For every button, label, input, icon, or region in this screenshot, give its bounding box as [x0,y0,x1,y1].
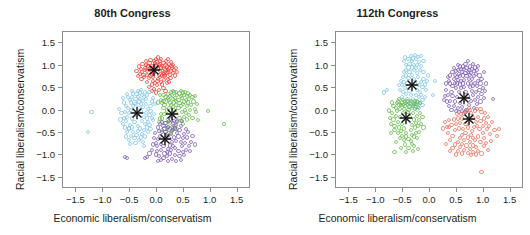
data-point [399,146,403,150]
data-point [401,98,405,102]
data-point [450,94,454,98]
x-axis-label: Economic liberalism/conservatism [265,212,530,224]
data-point [448,149,452,153]
x-tick-mark [129,188,130,192]
cluster-centroid-marker [158,132,173,151]
data-point [482,144,486,148]
data-point [119,111,123,115]
data-point [445,125,449,129]
x-tick-mark [402,188,403,192]
x-tick-mark [348,188,349,192]
y-tick-mark [58,154,62,155]
data-point [179,89,183,93]
data-point [186,130,190,134]
data-point [492,128,496,132]
y-tick-label: −1.5 [298,171,328,182]
data-point [454,152,458,156]
data-point [419,54,423,58]
data-point [423,82,427,86]
y-tick-mark [331,110,335,111]
x-tick-mark [429,188,430,192]
x-tick-label: 0.5 [441,194,471,205]
data-point [431,93,435,97]
data-point [387,108,391,112]
data-point [497,127,501,131]
data-point [176,149,180,153]
data-point [466,59,470,63]
y-tick-mark [58,177,62,178]
x-tick-label: 1.5 [495,194,525,205]
data-point [392,128,396,132]
y-tick-label: 0.5 [298,82,328,93]
plot-area [335,31,523,188]
data-point [156,159,160,163]
data-point [190,134,194,138]
y-tick-label: 1.0 [298,59,328,70]
data-point [129,134,133,138]
data-point [187,144,191,148]
data-point [419,64,423,68]
y-tick-label: 1.5 [25,37,55,48]
data-point [478,99,482,103]
y-tick-mark [58,110,62,111]
cluster-centroid-marker [462,111,477,130]
data-point [124,104,128,108]
data-point [482,96,486,100]
data-point [460,151,464,155]
data-point [489,139,493,143]
x-tick-mark [156,188,157,192]
x-tick-mark [510,188,511,192]
data-point [143,134,147,138]
data-point [152,112,156,116]
x-axis-label: Economic liberalism/conservatism [0,212,265,224]
data-point [424,88,428,92]
x-tick-label: −1.0 [360,194,390,205]
data-point [415,136,419,140]
congress-ideology-figure: 80th Congress Racial liberalism/conserva… [0,0,530,235]
x-tick-mark [210,188,211,192]
x-tick-label: 1.0 [468,194,498,205]
data-point [486,115,490,119]
y-tick-label: 1.0 [25,59,55,70]
data-point [407,70,411,74]
data-point [148,127,152,131]
x-tick-label: 1.5 [222,194,252,205]
data-point [421,125,425,129]
data-point [177,128,181,132]
data-point [478,107,482,111]
data-point [385,88,389,92]
y-tick-label: −1.5 [25,171,55,182]
data-point [143,156,147,160]
x-tick-mark [102,188,103,192]
data-point [186,91,190,95]
y-tick-label: −1.0 [298,149,328,160]
data-point [148,104,152,108]
data-point [488,132,492,136]
scatter-canvas [63,32,249,187]
plot-area [62,31,250,188]
data-point [391,104,395,108]
cluster-centroid-marker [147,63,162,82]
y-tick-mark [58,65,62,66]
data-point [185,135,189,139]
data-point [404,150,408,154]
data-point [194,110,198,114]
y-tick-label: 0.5 [25,82,55,93]
data-point [122,100,126,104]
x-tick-mark [237,188,238,192]
y-tick-label: −0.5 [25,126,55,137]
data-point [188,149,192,153]
y-tick-mark [331,177,335,178]
data-point [487,124,491,128]
y-tick-mark [58,42,62,43]
data-point [447,118,451,122]
data-point [417,130,421,134]
cluster-centroid-marker [165,107,180,126]
x-tick-mark [183,188,184,192]
data-point [190,116,194,120]
data-point [195,102,199,106]
data-point [495,134,499,138]
data-point [441,126,445,130]
data-point [474,152,478,156]
data-point [397,97,401,101]
